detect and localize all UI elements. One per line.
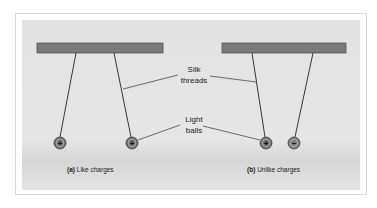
caption-b: (b) Unlike charges <box>247 166 300 173</box>
leader-silk-left <box>123 75 178 89</box>
caption-a-text: Like charges <box>77 166 114 173</box>
label-light-balls: Light balls <box>172 114 216 136</box>
charge-a-left: + <box>58 139 63 148</box>
caption-b-tag: (b) <box>247 166 255 173</box>
charge-b-right: − <box>292 139 297 148</box>
thread-a-left <box>60 53 76 137</box>
caption-b-text: Unlike charges <box>257 166 300 173</box>
leader-silk-right <box>210 76 256 82</box>
charge-a-right: + <box>130 139 135 148</box>
support-bar-left <box>37 43 163 53</box>
label-balls-line2: balls <box>172 125 216 136</box>
caption-a-tag: (a) <box>67 166 75 173</box>
caption-a: (a) Like charges <box>67 166 114 173</box>
label-balls-line1: Light <box>172 114 216 125</box>
label-silk-line2: threads <box>172 75 216 86</box>
thread-b-left <box>252 53 265 137</box>
label-silk-threads: Silk threads <box>172 64 216 86</box>
thread-b-right <box>295 53 313 137</box>
diagram-drawing: + + + − <box>0 0 377 208</box>
support-bar-right <box>222 43 346 53</box>
thread-a-right <box>114 53 131 137</box>
charge-b-left: + <box>264 139 269 148</box>
label-silk-line1: Silk <box>172 64 216 75</box>
